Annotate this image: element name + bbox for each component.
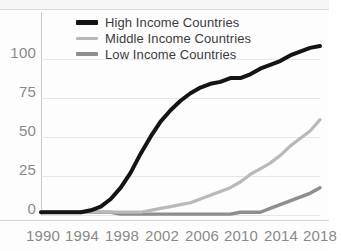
x-tick-label-2006: 2006 [181, 228, 223, 243]
x-tick-label-2018: 2018 [299, 228, 341, 243]
x-tick-label-1994: 1994 [61, 228, 103, 243]
legend-label-low-income: Low Income Countries [105, 47, 236, 62]
legend-item-middle-income: Middle Income Countries [76, 30, 286, 46]
y-tick-label-25: 25 [19, 162, 36, 177]
legend-label-high-income: High Income Countries [105, 15, 239, 30]
header-divider [0, 9, 329, 10]
x-tick-label-1998: 1998 [101, 228, 143, 243]
x-axis-baseline [0, 220, 329, 221]
x-tick-label-1990: 1990 [22, 228, 64, 243]
legend-swatch-high-income-icon [76, 20, 98, 25]
y-tick-label-75: 75 [19, 84, 36, 99]
x-tick-label-2014: 2014 [260, 228, 302, 243]
series-line-high-income [41, 46, 320, 212]
y-tick-label-100: 100 [10, 45, 36, 60]
y-tick-label-0: 0 [27, 201, 36, 216]
legend-swatch-low-income-icon [76, 52, 98, 56]
y-tick-label-50: 50 [19, 123, 36, 138]
legend-label-middle-income: Middle Income Countries [105, 31, 251, 46]
legend-swatch-middle-income-icon [76, 37, 98, 40]
series-line-middle-income [41, 120, 320, 213]
cropped-header-band [0, 0, 329, 9]
chart-legend: High Income Countries Middle Income Coun… [76, 14, 286, 62]
x-tick-label-2002: 2002 [141, 228, 183, 243]
legend-item-low-income: Low Income Countries [76, 46, 286, 62]
x-tick-label-2010: 2010 [220, 228, 262, 243]
y-axis-tick-labels: 100 75 50 25 0 [0, 0, 36, 251]
legend-item-high-income: High Income Countries [76, 14, 286, 30]
x-axis-tick-labels: 1990 1994 1998 2002 2006 2010 2014 2018 [0, 228, 329, 250]
